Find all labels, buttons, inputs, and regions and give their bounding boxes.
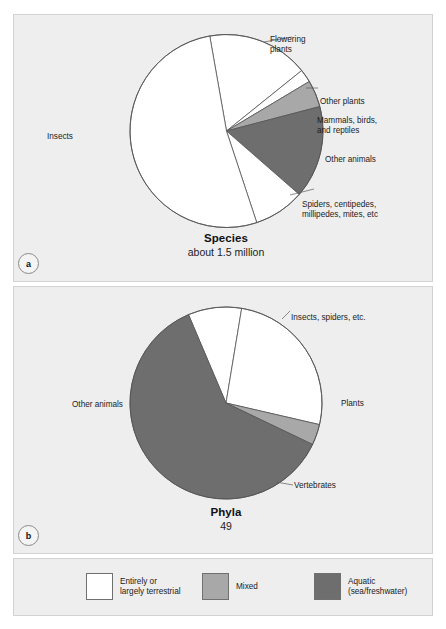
pie-label-other-animals-phyla: Other animals [72, 400, 123, 410]
legend-item-mixed: Mixed [202, 573, 258, 600]
pie-label-mammals-birds-reptiles: Mammals, birds, and reptiles [317, 116, 377, 136]
legend-label-mixed: Mixed [236, 582, 258, 592]
caption-phyla-subtitle: 49 [126, 519, 326, 533]
pie-label-spiders-centipedes: Spiders, centipedes, millipedes, mites, … [302, 200, 378, 220]
caption-species-subtitle: about 1.5 million [126, 245, 326, 259]
panel-badge-a: a [18, 253, 39, 274]
legend-item-terrestrial: Entirely or largely terrestrial [86, 573, 181, 600]
leader-line [282, 311, 290, 319]
caption-species-title: Species [126, 231, 326, 245]
figure-root: Flowering plants Other plants Mammals, b… [0, 0, 446, 629]
panel-legend: Entirely or largely terrestrial Mixed Aq… [13, 558, 433, 616]
pie-label-flowering-plants: Flowering plants [270, 35, 306, 55]
pie-label-insects: Insects [47, 132, 73, 142]
pie-label-vertebrates: Vertebrates [294, 481, 336, 491]
caption-phyla-title: Phyla [126, 505, 326, 519]
pie-label-insects-spiders: Insects, spiders, etc. [291, 313, 366, 323]
legend-label-terrestrial: Entirely or largely terrestrial [120, 577, 181, 597]
legend-item-aquatic: Aquatic (sea/freshwater) [314, 573, 407, 600]
pie-label-plants: Plants [341, 399, 364, 409]
legend-label-aquatic: Aquatic (sea/freshwater) [348, 577, 407, 597]
caption-phyla: Phyla 49 [126, 505, 326, 533]
legend-swatch-aquatic [314, 573, 341, 600]
legend-swatch-terrestrial [86, 573, 113, 600]
panel-badge-b: b [18, 525, 39, 546]
caption-species: Species about 1.5 million [126, 231, 326, 259]
legend: Entirely or largely terrestrial Mixed Aq… [14, 559, 434, 617]
legend-swatch-mixed [202, 573, 229, 600]
pie-label-other-animals: Other animals [325, 155, 376, 165]
pie-label-other-plants: Other plants [320, 97, 365, 107]
